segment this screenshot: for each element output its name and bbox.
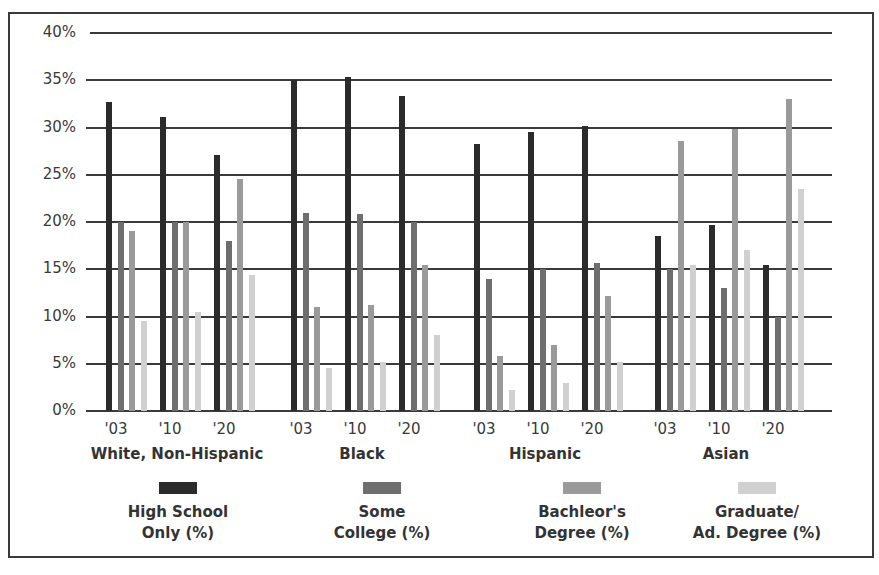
bar	[551, 345, 557, 411]
bar	[798, 189, 804, 411]
x-axis-year-label: '20	[204, 420, 244, 438]
bar	[528, 132, 534, 411]
x-axis-year-label: '10	[518, 420, 558, 438]
bar	[474, 144, 480, 411]
legend-swatch	[159, 482, 197, 494]
gridline	[90, 32, 832, 34]
bar	[237, 179, 243, 411]
bar	[326, 368, 332, 411]
x-axis-year-label: '03	[96, 420, 136, 438]
bar	[678, 141, 684, 411]
gridline	[86, 221, 832, 223]
legend-item: High School Only (%)	[78, 482, 278, 544]
bar	[434, 335, 440, 411]
bar	[411, 222, 417, 411]
bar	[183, 222, 189, 411]
x-axis-year-label: '10	[335, 420, 375, 438]
bar	[763, 265, 769, 411]
y-axis-tick-label: 15%	[6, 259, 76, 277]
gridline	[86, 79, 832, 81]
bar	[732, 129, 738, 411]
bar	[303, 213, 309, 411]
legend-label: Some College (%)	[282, 502, 482, 544]
x-axis-year-label: '03	[464, 420, 504, 438]
y-axis-tick-label: 40%	[6, 23, 76, 41]
bar	[721, 288, 727, 411]
bar	[582, 126, 588, 411]
bar	[118, 222, 124, 411]
legend-label: Graduate/ Ad. Degree (%)	[657, 502, 857, 544]
bar	[690, 265, 696, 411]
bar	[786, 99, 792, 411]
legend-item: Some College (%)	[282, 482, 482, 544]
bar	[563, 383, 569, 411]
bar	[357, 214, 363, 411]
bar	[744, 250, 750, 411]
y-axis-tick-label: 0%	[6, 401, 76, 419]
bar	[594, 263, 600, 411]
bar	[345, 77, 351, 411]
bar	[226, 241, 232, 411]
bar	[667, 269, 673, 411]
x-axis-year-label: '10	[150, 420, 190, 438]
bar	[497, 356, 503, 411]
legend-swatch	[563, 482, 601, 494]
bar	[141, 321, 147, 411]
y-axis-tick-label: 5%	[6, 354, 76, 372]
bar	[106, 102, 112, 411]
legend-label: Bachleor's Degree (%)	[482, 502, 682, 544]
bar	[195, 312, 201, 411]
bar	[214, 155, 220, 411]
y-axis-tick-label: 10%	[6, 307, 76, 325]
bar	[617, 362, 623, 411]
bar	[380, 362, 386, 411]
bar	[422, 265, 428, 411]
gridline	[86, 268, 832, 270]
x-axis-year-label: '20	[389, 420, 429, 438]
bar	[540, 269, 546, 411]
x-axis-year-label: '03	[645, 420, 685, 438]
legend-swatch	[738, 482, 776, 494]
bar	[129, 231, 135, 411]
bar	[172, 222, 178, 411]
bar	[605, 296, 611, 411]
bar	[775, 317, 781, 412]
bar	[399, 96, 405, 411]
bar	[509, 390, 515, 411]
legend-item: Graduate/ Ad. Degree (%)	[657, 482, 857, 544]
bar-chart: 0%5%10%15%20%25%30%35%40%'03'10'20White,…	[0, 0, 879, 575]
y-axis-tick-label: 25%	[6, 165, 76, 183]
x-axis-group-label: Asian	[616, 445, 836, 463]
x-axis-year-label: '20	[753, 420, 793, 438]
y-axis-tick-label: 30%	[6, 118, 76, 136]
legend-label: High School Only (%)	[78, 502, 278, 544]
legend-swatch	[363, 482, 401, 494]
y-axis-tick-label: 35%	[6, 70, 76, 88]
bar	[249, 275, 255, 411]
x-axis-year-label: '03	[281, 420, 321, 438]
x-axis-year-label: '10	[699, 420, 739, 438]
bar	[368, 305, 374, 411]
bar	[655, 236, 661, 411]
x-axis-year-label: '20	[572, 420, 612, 438]
bar	[709, 225, 715, 411]
bar	[314, 307, 320, 411]
bar	[291, 80, 297, 411]
bar	[160, 117, 166, 411]
gridline	[86, 174, 832, 176]
legend-item: Bachleor's Degree (%)	[482, 482, 682, 544]
y-axis-tick-label: 20%	[6, 212, 76, 230]
bar	[486, 279, 492, 411]
gridline	[86, 127, 832, 129]
